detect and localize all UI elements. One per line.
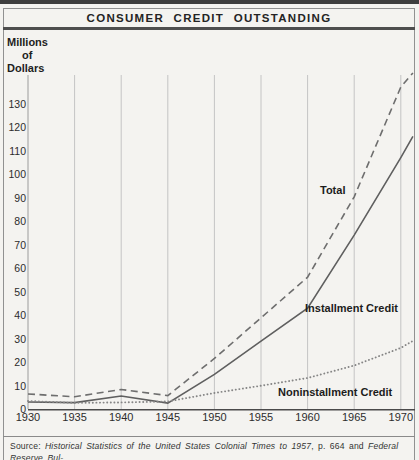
source-mid: , p. 664 and bbox=[311, 441, 368, 451]
series-label-installment-credit: Installment Credit bbox=[305, 302, 398, 314]
plot-canvas bbox=[25, 70, 417, 412]
source-note: Source: Historical Statistics of the Uni… bbox=[10, 441, 409, 460]
figure-page: CONSUMER CREDIT OUTSTANDING Millions of … bbox=[0, 0, 419, 460]
chart-title: CONSUMER CREDIT OUTSTANDING bbox=[87, 12, 332, 24]
y-unit-line-2: of bbox=[7, 49, 59, 62]
chart-title-band: CONSUMER CREDIT OUTSTANDING bbox=[3, 8, 415, 30]
series-line-installment-credit bbox=[28, 136, 413, 403]
y-unit-line-1: Millions bbox=[7, 36, 59, 49]
top-rule bbox=[0, 0, 419, 4]
series-label-total: Total bbox=[320, 184, 345, 196]
series-label-noninstallment-credit: Noninstallment Credit bbox=[278, 386, 392, 398]
source-title-1: Historical Statistics of the United Stat… bbox=[45, 441, 311, 451]
source-divider-rule bbox=[3, 436, 415, 437]
source-prefix: Source: bbox=[10, 441, 45, 451]
